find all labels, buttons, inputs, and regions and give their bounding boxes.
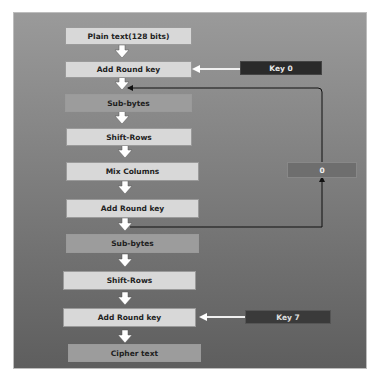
key-0-box: Key 0 xyxy=(240,61,322,75)
step-sub-bytes-1: Sub-bytes xyxy=(65,94,192,112)
step-add-round-key-round: Add Round key xyxy=(66,199,199,218)
step-sub-bytes-final: Sub-bytes xyxy=(66,234,199,253)
down-arrow-icons xyxy=(115,45,132,343)
step-cipher-text: Cipher text xyxy=(68,344,201,362)
loop-counter: 0 xyxy=(287,162,357,178)
step-plain-text: Plain text(128 bits) xyxy=(65,27,192,45)
step-add-round-key-0: Add Round key xyxy=(65,61,192,78)
step-shift-rows-final: Shift-Rows xyxy=(63,271,196,290)
step-shift-rows-1: Shift-Rows xyxy=(66,128,192,146)
key-7-box: Key 7 xyxy=(245,310,331,324)
step-mix-columns: Mix Columns xyxy=(66,162,199,181)
step-add-round-key-final: Add Round key xyxy=(63,308,196,327)
